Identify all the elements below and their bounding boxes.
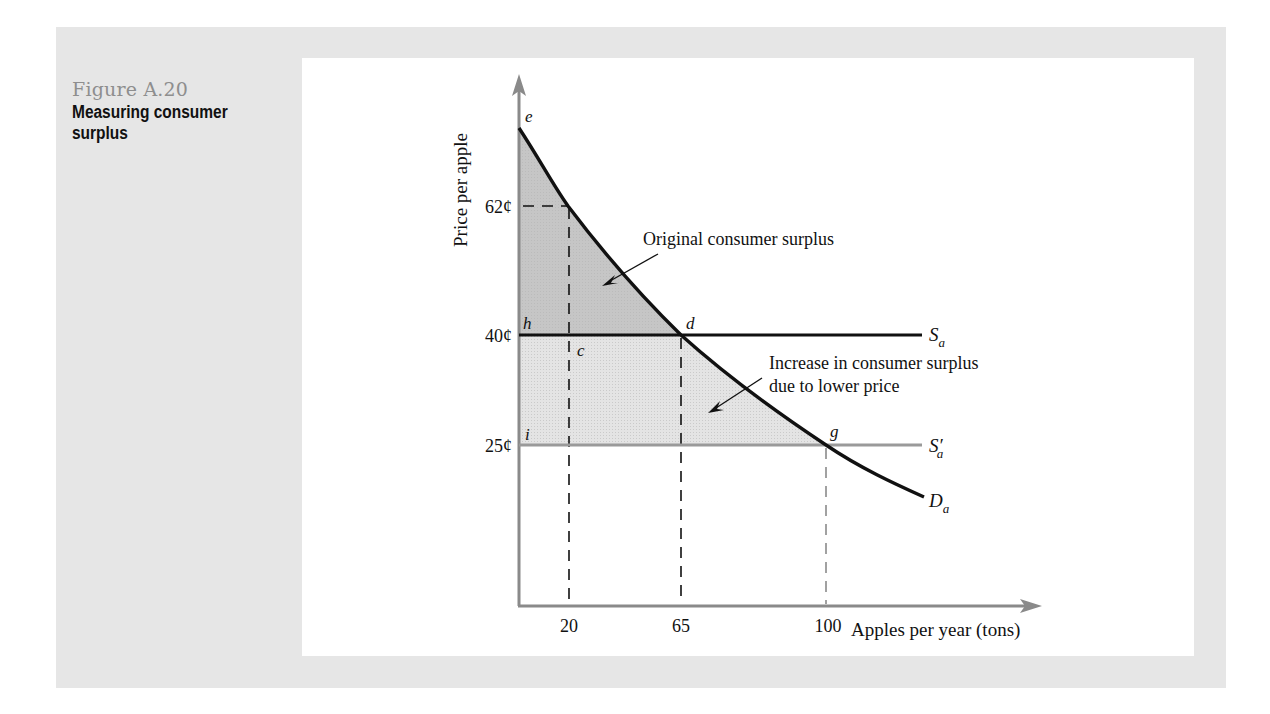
x-axis-label: Apples per year (tons) xyxy=(851,619,1020,641)
y-tick-25: 25¢ xyxy=(485,436,512,456)
point-c: c xyxy=(577,341,585,360)
y-tick-62: 62¢ xyxy=(485,197,512,217)
label-da: Da xyxy=(928,490,950,516)
point-g: g xyxy=(830,422,839,441)
x-tick-65: 65 xyxy=(672,616,690,636)
point-e: e xyxy=(525,107,533,126)
label-sa: Sa xyxy=(929,324,946,350)
label-sa-prime: S′a xyxy=(929,435,944,461)
annotation-increase-line1: Increase in consumer surplus xyxy=(769,353,978,373)
point-d: d xyxy=(686,314,695,333)
y-tick-40: 40¢ xyxy=(485,326,512,346)
x-tick-20: 20 xyxy=(560,616,578,636)
x-tick-100: 100 xyxy=(815,616,842,636)
consumer-surplus-chart: Price per apple 62¢ 40¢ 25¢ 20 65 100 Ap… xyxy=(0,0,1270,714)
x-axis xyxy=(518,599,1042,613)
point-i: i xyxy=(525,425,530,444)
point-h: h xyxy=(523,314,532,333)
annotation-increase-line2: due to lower price xyxy=(769,376,899,396)
y-axis-label: Price per apple xyxy=(450,133,471,247)
annotation-original-surplus: Original consumer surplus xyxy=(643,229,834,249)
